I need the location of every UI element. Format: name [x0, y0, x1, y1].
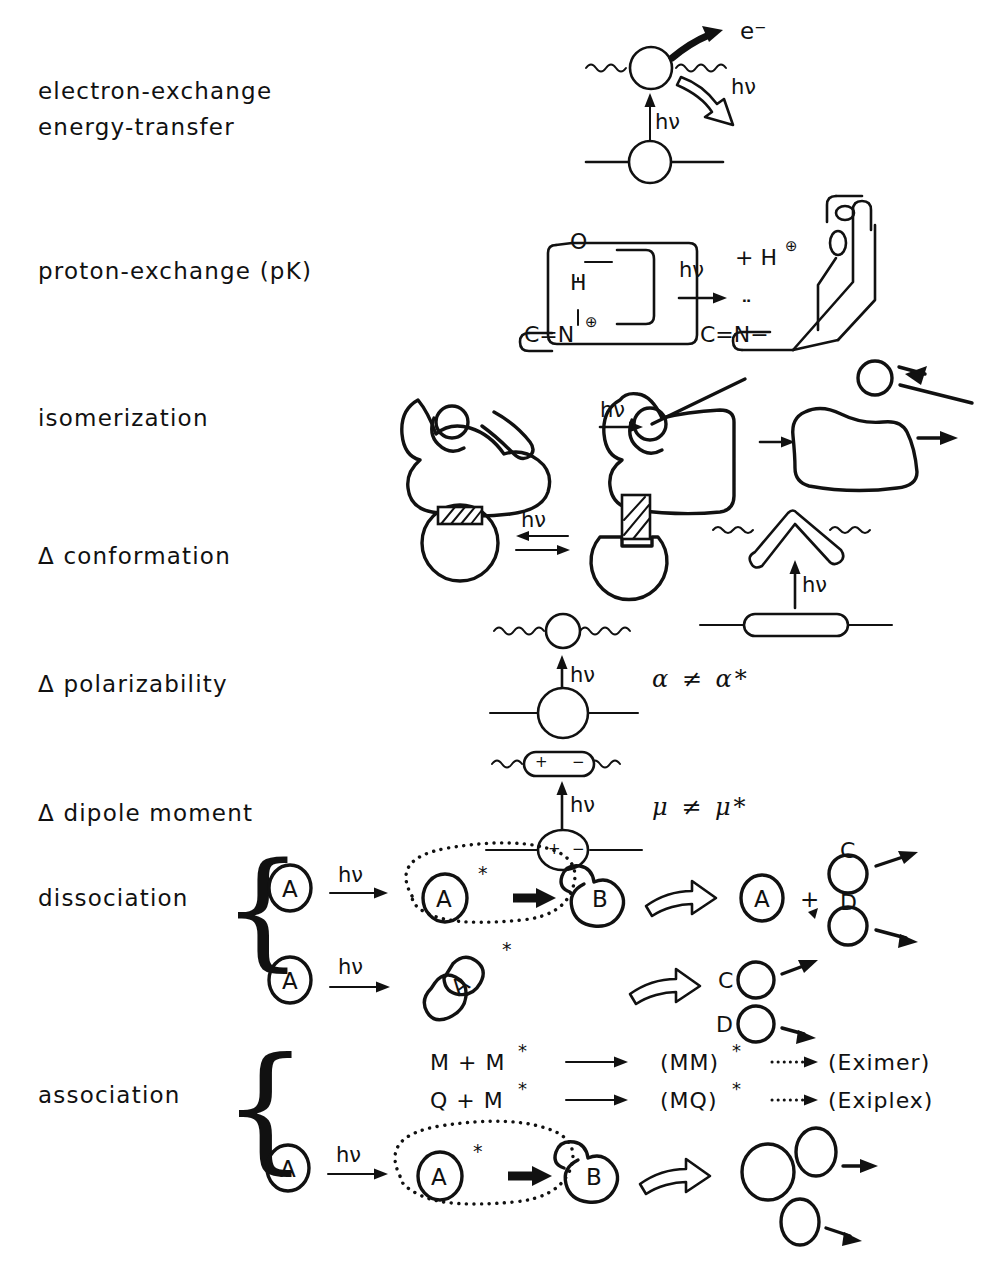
fragment-c-arrow-head [898, 851, 918, 864]
hatched-block-open [622, 495, 650, 539]
fragment-d-arrow-head [898, 934, 918, 948]
released-proton-charge: ⊕ [785, 237, 798, 255]
dipole-minus-ground: − [572, 840, 585, 858]
assoc-product-small-circle [796, 1128, 836, 1176]
assoc-eq2-dotted-head [804, 1095, 818, 1106]
polarizability-squiggle-left [494, 628, 544, 635]
assoc-eq2-arrow-head [614, 1095, 628, 1106]
conformation-arrow-right-head [557, 545, 570, 555]
diss2-excited-star: * [502, 938, 513, 960]
electron-label: e⁻ [740, 18, 766, 44]
excitation-arrow-head [645, 93, 656, 107]
assoc-eq2-complex-star: * [732, 1078, 742, 1099]
diss1-plus-sign: + [800, 886, 820, 912]
diss1-convert-arrow-head [536, 888, 556, 908]
conformation-squiggle-left [713, 527, 753, 533]
excited-state-molecule-circle [630, 47, 672, 89]
diss2-fragment-d-circle [738, 1006, 774, 1042]
photon-label-diss2: hν [338, 955, 363, 979]
imine-right-label: C=N− [700, 322, 769, 347]
photon-label-excitation-row1: hν [655, 110, 680, 134]
diss2-d-arrow-head [796, 1030, 816, 1044]
assoc-eq2-product: (Exiplex) [828, 1088, 933, 1113]
diss1-hollow-arrow [646, 881, 716, 916]
chromophore-right-cap [827, 196, 836, 222]
assoc-eq2-reactant-star: * [518, 1078, 528, 1099]
polarizability-squiggle-right [580, 628, 630, 635]
diss2-arrow-head [376, 982, 390, 993]
assoc-product-arrow-head-1 [860, 1159, 878, 1173]
polarizability-excitation-head [557, 655, 568, 669]
assoc-hollow-arrow [640, 1159, 710, 1194]
conformation-arrow-left-head [516, 531, 529, 541]
hydrogen-label: H [570, 270, 587, 295]
dipole-minus-excited: − [572, 753, 585, 771]
release-arrow-shaft-1 [900, 385, 972, 403]
polarizability-ground-circle [538, 688, 588, 738]
fragment-c-label: C [840, 838, 856, 863]
photon-label-diss1: hν [338, 863, 363, 887]
photon-label-row4-right: hν [802, 573, 827, 597]
assoc-eq1-complex: (MM) [660, 1050, 719, 1075]
release-arrow-head-2 [940, 431, 958, 445]
diss2-reactant-label: A [282, 968, 299, 994]
dipole-excitation-head [557, 781, 568, 795]
assoc-eq1-reactant-star: * [518, 1040, 528, 1061]
dipole-squiggle-left [492, 761, 522, 768]
polarizability-excited-circle [546, 614, 580, 648]
oxygen-left-label: O [570, 229, 587, 254]
diss1-product-b-label: B [592, 886, 609, 912]
imine-left-label: C=N [524, 322, 574, 347]
assoc-product-free-circle [781, 1199, 819, 1245]
excited-state-squiggle-left [586, 65, 626, 72]
ground-state-molecule-circle [629, 141, 671, 183]
photon-label-row4-left: hν [521, 508, 546, 532]
ligand-circle-1 [436, 406, 468, 438]
assoc-product-arrow-head-2 [842, 1232, 862, 1246]
assoc-eq1-complex-star: * [732, 1040, 742, 1061]
conformation-squiggle-right [830, 527, 870, 533]
photon-label-row5: hν [570, 663, 595, 687]
photon-label-emission-row1: hν [731, 75, 756, 99]
diss1-arrow-head [374, 888, 388, 899]
released-proton-label: + H [735, 245, 777, 270]
fragment-d-label: D [840, 890, 858, 915]
assoc-eq1-dotted-head [804, 1057, 818, 1068]
assoc-product-big-circle [742, 1144, 794, 1200]
assoc-eq1-reactants: M + M [430, 1050, 505, 1075]
oxygen-right-ellipse [830, 231, 846, 255]
conformation-open-circle [591, 537, 667, 600]
photon-label-assoc: hν [336, 1143, 361, 1167]
diss1-excited-star: * [478, 862, 489, 884]
assoc-reactant-label: A [280, 1156, 297, 1182]
polarizability-relation: α ≠ α* [652, 665, 750, 693]
assoc-excited-label: A [431, 1164, 448, 1190]
diss2-fragment-d-label: D [716, 1012, 734, 1037]
diss2-fragment-c-circle [738, 962, 774, 998]
diagram-page: electron-exchange energy-transfer proton… [0, 0, 990, 1268]
dipole-plus-excited: + [535, 753, 548, 771]
protein-blob-3 [793, 408, 917, 490]
dipole-plus-ground: + [548, 840, 561, 858]
assoc-eq1-arrow-head [614, 1057, 628, 1068]
diss1-excited-label: A [436, 886, 453, 912]
electron-ejection-arrow-shaft [672, 35, 709, 58]
imine-left-charge: ⊕ [585, 313, 598, 331]
chromophore-right-outer [793, 201, 871, 350]
released-ligand-circle [858, 361, 892, 395]
assoc-eq2-reactants: Q + M [430, 1088, 504, 1113]
assoc-excited-star: * [473, 1140, 484, 1162]
row2-arrow-head [713, 293, 727, 304]
oxygen-right-upper-ellipse [836, 206, 854, 220]
excited-state-squiggle-right [676, 65, 726, 72]
assoc-convert-arrow-head [532, 1166, 552, 1186]
emission-hollow-arrow [677, 77, 733, 125]
diss2-c-arrow-head [798, 960, 818, 973]
conformation-excitation-head [790, 560, 801, 574]
rod-ground-state [744, 614, 848, 636]
chromophore-left-inner-hook [617, 250, 654, 324]
diagram-canvas [0, 0, 990, 1268]
lone-pair-dots: ¨ [741, 296, 751, 321]
photon-label-row3: hν [600, 398, 625, 422]
diss1-result-a-label: A [754, 886, 771, 912]
